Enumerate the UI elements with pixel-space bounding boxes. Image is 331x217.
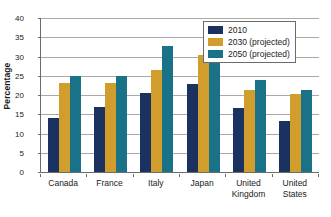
x-axis-tick-mark [86, 174, 87, 177]
y-axis-tick-label: 35 [2, 33, 24, 42]
bar [116, 76, 127, 172]
bar-chart: Percentage 0510152025303540 CanadaFrance… [0, 0, 331, 217]
x-axis-tick-label: UnitedKingdom [225, 174, 271, 200]
bar [244, 90, 255, 172]
bar-group [87, 18, 133, 172]
y-axis-tick-label: 10 [2, 129, 24, 138]
legend-swatch [208, 50, 223, 58]
legend-item: 2030 (projected) [208, 37, 290, 47]
bar [162, 46, 173, 172]
y-axis-tick-label: 30 [2, 52, 24, 61]
x-axis-tick-label-line: France [86, 178, 132, 189]
x-axis-tick-mark [225, 174, 226, 177]
bar [290, 94, 301, 172]
legend-label: 2010 [228, 25, 247, 35]
y-axis-title: Percentage [0, 0, 14, 172]
y-axis-tick-label: 25 [2, 71, 24, 80]
bar-group [41, 18, 87, 172]
x-axis-tick-label-line: Italy [133, 178, 179, 189]
x-axis-tick-mark [272, 174, 273, 177]
y-axis-tick-label: 20 [2, 91, 24, 100]
bar [48, 118, 59, 172]
x-axis-tick-label-line: Kingdom [225, 189, 271, 200]
x-axis-tick-label: UnitedStates [272, 174, 318, 200]
bar [140, 93, 151, 172]
y-axis-tick-label: 0 [2, 168, 24, 177]
x-axis-tick-label-line: United [225, 178, 271, 189]
bar [279, 121, 290, 172]
x-axis-tick-label-line: Japan [179, 178, 225, 189]
x-axis-tick-label: Japan [179, 174, 225, 200]
bar [301, 90, 312, 172]
x-axis-tick-mark [40, 174, 41, 177]
bar [105, 83, 116, 172]
legend-item: 2010 [208, 25, 290, 35]
legend-swatch [208, 38, 223, 46]
bar [94, 107, 105, 172]
bar-group [134, 18, 180, 172]
y-axis-tick-label: 5 [2, 148, 24, 157]
x-axis-tick-label-line: United [272, 178, 318, 189]
y-axis-tick-label: 40 [2, 14, 24, 23]
x-axis-tick-label: France [86, 174, 132, 200]
bar [151, 70, 162, 172]
bar [198, 55, 209, 172]
legend-label: 2030 (projected) [228, 37, 290, 47]
x-axis-tick-mark [133, 174, 134, 177]
legend-label: 2050 (projected) [228, 49, 290, 59]
x-axis-tick-label: Italy [133, 174, 179, 200]
bar [255, 80, 266, 172]
legend-item: 2050 (projected) [208, 49, 290, 59]
y-axis-title-text: Percentage [2, 63, 12, 110]
bar [233, 108, 244, 172]
x-axis-tick-mark [318, 174, 319, 177]
x-axis-tick-label: Canada [40, 174, 86, 200]
x-axis-labels: CanadaFranceItalyJapanUnitedKingdomUnite… [40, 174, 318, 200]
chart-legend: 20102030 (projected)2050 (projected) [203, 21, 296, 63]
x-axis-tick-mark [179, 174, 180, 177]
legend-swatch [208, 26, 223, 34]
y-axis-tick-mark [38, 172, 41, 173]
bar [70, 76, 81, 172]
x-axis-tick-label-line: States [272, 189, 318, 200]
x-axis-tick-label-line: Canada [40, 178, 86, 189]
y-axis-tick-label: 15 [2, 110, 24, 119]
bar [187, 84, 198, 172]
bar [59, 83, 70, 172]
